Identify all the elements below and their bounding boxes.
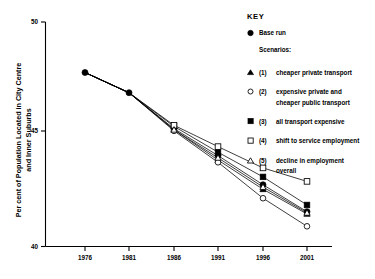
filled-circle-icon (248, 30, 253, 35)
series-scenario-3 (85, 73, 307, 205)
legend-entry-scenario-3[interactable]: (3) all transport expensive (248, 118, 345, 126)
x-tick-label-1996: 1996 (256, 254, 271, 261)
y-tick-label-50: 50 (31, 18, 39, 25)
x-tick-label-1991: 1991 (211, 254, 226, 261)
y-axis-label: Per cent of Population Located in City C… (14, 63, 33, 218)
legend-label-scenario-2-line1: expensive private and (276, 88, 342, 96)
x-tick-label-1986: 1986 (167, 254, 182, 261)
legend-entry-base-run[interactable]: Base run (248, 29, 286, 36)
series-line-scenario-1 (85, 73, 307, 214)
legend-scenarios-heading: Scenarios: (259, 46, 291, 53)
legend-label-scenario-5-line2: overall (276, 167, 297, 174)
y-tick-label-40: 40 (31, 243, 39, 250)
open-circle-icon (248, 89, 253, 94)
x-tick-label-1981: 1981 (122, 254, 137, 261)
legend-label-scenario-2-line2: cheaper public transport (276, 99, 351, 107)
legend-entry-scenario-1[interactable]: (1) cheaper private transport (248, 69, 353, 77)
data-point-base-run-1981 (126, 90, 132, 96)
y-axis-label-line2: and Inner Suburbs (24, 108, 33, 172)
x-tick-label-2001: 2001 (300, 254, 315, 261)
series-scenario-2 (85, 73, 307, 227)
open-triangle-icon (247, 158, 253, 163)
legend-entry-scenario-2[interactable]: (2) expensive private and cheaper public… (248, 88, 351, 107)
legend-label-scenario-4: shift to service employment (276, 137, 360, 145)
chart-figure: Per cent of Population Located in City C… (0, 0, 375, 279)
series-line-scenario-4 (85, 73, 307, 182)
data-point-scenario-2-1996 (260, 195, 266, 201)
legend-number-3: (3) (259, 118, 267, 126)
legend-entry-scenario-4[interactable]: (4) shift to service employment (248, 137, 360, 145)
y-tick-label-45: 45 (31, 127, 39, 134)
x-axis-ticks: 1976 1981 1986 1991 1996 2001 (78, 247, 315, 262)
data-point-base-run-1976 (82, 70, 88, 76)
x-tick-label-1976: 1976 (78, 254, 93, 261)
y-axis-label-line1: Per cent of Population Located in City C… (14, 63, 23, 218)
series-scenario-1 (85, 73, 307, 214)
data-point-scenario-3-1996 (260, 174, 266, 180)
data-point-scenario-4-1991 (215, 144, 221, 150)
series-scenario-5 (85, 73, 307, 213)
axes (46, 22, 333, 247)
data-point-scenario-3-2001 (304, 202, 310, 208)
legend-label-scenario-5-line1: decline in employment (276, 157, 345, 165)
series-line-base-run (85, 73, 307, 212)
series-line-scenario-3 (85, 73, 307, 205)
legend-label-scenario-3: all transport expensive (276, 118, 345, 126)
legend-label-scenario-1: cheaper private transport (276, 69, 353, 77)
series-base-run (85, 73, 307, 212)
legend-number-5: (5) (259, 157, 267, 165)
legend-number-4: (4) (259, 137, 267, 145)
series-line-scenario-2 (85, 73, 307, 227)
y-axis-ticks: 50 45 40 (31, 18, 46, 250)
legend-number-2: (2) (259, 88, 267, 96)
series-line-scenario-5 (85, 73, 307, 213)
legend: KEY Base run Scenarios: (1) cheaper priv… (247, 12, 360, 174)
legend-label-base-run: Base run (259, 29, 286, 36)
data-point-scenario-2-2001 (304, 223, 310, 229)
legend-number-1: (1) (259, 69, 267, 77)
open-square-icon (248, 138, 253, 143)
filled-square-icon (248, 119, 253, 124)
legend-title: KEY (247, 12, 264, 21)
series-scenario-4 (85, 73, 307, 182)
filled-triangle-icon (248, 70, 254, 75)
data-point-scenario-4-2001 (304, 179, 310, 185)
data-point-scenario-4-1996 (260, 165, 266, 171)
